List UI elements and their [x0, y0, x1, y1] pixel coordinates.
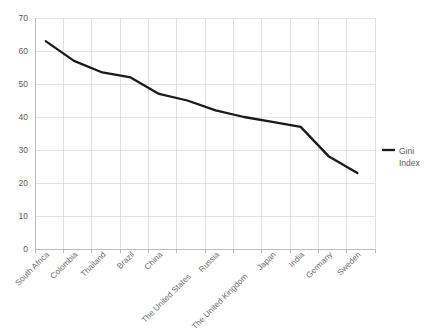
y-tick-label: 60: [19, 46, 29, 56]
series-line-gini-index: [46, 41, 358, 173]
series-gini-index: [46, 41, 358, 173]
x-tick-label: Russia: [197, 250, 221, 274]
x-tick-label: Thailand: [79, 250, 108, 279]
y-tick-label: 50: [19, 79, 29, 89]
y-tick-label: 20: [19, 178, 29, 188]
x-tick-label: Sweden: [335, 250, 363, 278]
x-tick-label: Brazil: [115, 250, 136, 271]
x-tick-label: Japan: [256, 250, 278, 272]
x-tick-label: South Africa: [13, 250, 51, 288]
legend-label-line2: Index: [399, 158, 421, 168]
legend-label-line1: Gini: [399, 146, 414, 156]
x-tick-label: The United States: [140, 272, 193, 325]
x-axis: [35, 249, 375, 253]
gini-index-line-chart: 010203040506070 South AfricaColombiaThai…: [0, 0, 438, 336]
y-tick-label: 0: [23, 244, 28, 254]
y-tick-labels: 010203040506070: [19, 13, 29, 254]
x-tick-labels: South AfricaColombiaThailandBrazilChinaT…: [13, 249, 363, 331]
y-tick-label: 30: [19, 145, 29, 155]
x-tick-label: Colombia: [49, 250, 80, 281]
x-tick-label: Germany: [304, 249, 335, 280]
y-tick-label: 70: [19, 13, 29, 23]
x-tick-label: China: [143, 250, 165, 272]
chart-legend: GiniIndex: [382, 146, 421, 168]
x-gridlines: [35, 18, 375, 249]
y-tick-label: 10: [19, 211, 29, 221]
x-tick-label: The United Kingdom: [190, 272, 249, 331]
y-tick-label: 40: [19, 112, 29, 122]
chart-canvas: 010203040506070 South AfricaColombiaThai…: [0, 0, 438, 336]
